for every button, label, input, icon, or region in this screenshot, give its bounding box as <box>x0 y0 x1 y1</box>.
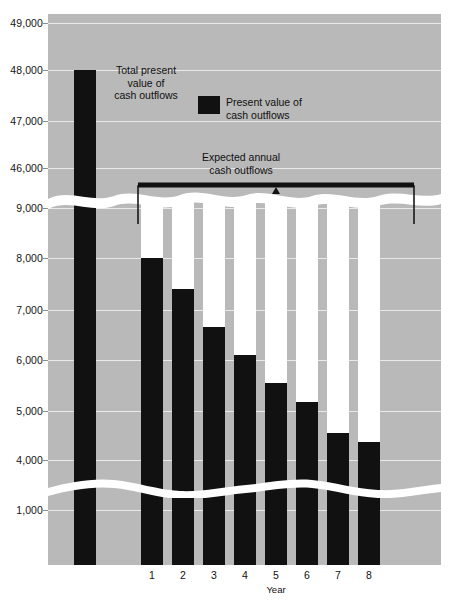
y-axis-tick-mark <box>43 70 48 71</box>
x-axis-tick-label: 7 <box>326 569 350 581</box>
y-axis-tick-mark <box>43 121 48 122</box>
x-axis-tick-label: 8 <box>357 569 381 581</box>
cash-outflow-bar-chart: 49,00048,00047,00046,0009,0008,0007,0006… <box>0 0 462 605</box>
x-axis-tick-label: 2 <box>171 569 195 581</box>
y-axis-tick-label: 5,000 <box>0 405 43 417</box>
x-axis-tick-label: 5 <box>264 569 288 581</box>
y-axis-tick-label: 4,000 <box>0 454 43 466</box>
y-axis-tick-label: 47,000 <box>0 115 43 127</box>
total-present-value-annotation: Total present value of cash outflows <box>96 64 196 102</box>
y-axis-tick-label: 46,000 <box>0 162 43 174</box>
y-axis-tick-mark <box>43 258 48 259</box>
y-axis-tick-label: 1,000 <box>0 504 43 516</box>
x-axis-tick-label: 1 <box>140 569 164 581</box>
y-axis-tick-label: 49,000 <box>0 17 43 29</box>
x-axis-title: Year <box>246 584 306 595</box>
legend-label-present-value: Present value of cash outflows <box>226 96 356 121</box>
x-axis-tick-label: 6 <box>295 569 319 581</box>
y-axis-tick-label: 6,000 <box>0 354 43 366</box>
y-axis-tick-mark <box>43 510 48 511</box>
y-axis-tick-mark <box>43 360 48 361</box>
x-axis-tick-label: 4 <box>233 569 257 581</box>
y-axis-tick-mark <box>43 460 48 461</box>
y-axis-tick-mark <box>43 23 48 24</box>
expected-annual-annotation: Expected annual cash outflows <box>186 151 296 176</box>
y-axis-tick-label: 8,000 <box>0 252 43 264</box>
y-axis-tick-mark <box>43 208 48 209</box>
y-axis-tick-label: 9,000 <box>0 202 43 214</box>
y-axis: 49,00048,00047,00046,0009,0008,0007,0006… <box>0 0 462 605</box>
y-axis-tick-label: 48,000 <box>0 64 43 76</box>
y-axis-tick-mark <box>43 310 48 311</box>
y-axis-tick-label: 7,000 <box>0 304 43 316</box>
y-axis-tick-mark <box>43 168 48 169</box>
y-axis-tick-mark <box>43 411 48 412</box>
x-axis-tick-label: 3 <box>202 569 226 581</box>
legend-swatch-present-value <box>198 96 220 114</box>
